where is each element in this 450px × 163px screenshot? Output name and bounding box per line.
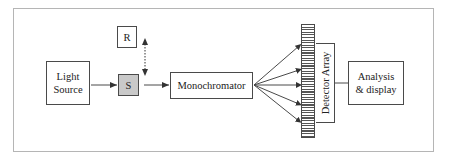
analysis-display-box: Analysis & display [348,61,404,105]
dotted-interchange-arrow [142,38,148,76]
detector-array-strip [301,24,315,138]
monochromator-box: Monochromator [170,72,253,99]
light-source-label: Light Source [53,70,82,96]
reference-label: R [123,31,130,44]
detector-array-label-box: Detector Array [316,43,335,123]
analysis-display-label: Analysis & display [355,70,396,96]
sample-label: S [126,79,132,92]
reference-box: R [117,26,137,48]
monochromator-label: Monochromator [177,79,245,92]
fan-out-arrows [254,46,299,121]
light-source-box: Light Source [46,61,90,105]
detector-array-label: Detector Array [320,52,331,115]
sample-box: S [118,74,139,96]
